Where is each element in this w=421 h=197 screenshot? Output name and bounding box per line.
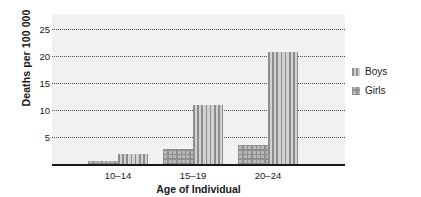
bar-girls-15-19 — [163, 149, 193, 164]
y-tick-label: 20 — [26, 52, 50, 62]
y-tick-label: 15 — [26, 79, 50, 89]
bar-boys-20-24 — [268, 52, 298, 164]
bar-chart-figure: Deaths per 100 000 25 20 15 10 5 10–14 1… — [0, 0, 421, 197]
y-axis-tick-labels: 25 20 15 10 5 — [26, 0, 50, 197]
bar-boys-15-19 — [193, 105, 223, 164]
bar-girls-20-24 — [238, 145, 268, 164]
bar-boys-10-14 — [118, 154, 148, 164]
x-axis-line — [52, 164, 345, 166]
x-axis-title: Age of Individual — [52, 183, 345, 195]
y-tick-label: 25 — [26, 25, 50, 35]
plot-area — [52, 14, 345, 164]
legend-swatch-girls-icon — [352, 87, 360, 95]
gridline-20 — [52, 56, 345, 57]
gridline-15 — [52, 83, 345, 84]
x-tick-label-20-24: 20–24 — [233, 170, 303, 181]
y-tick-label: 10 — [26, 106, 50, 116]
x-tick-label-15-19: 15–19 — [158, 170, 228, 181]
chart-legend: Boys Girls — [352, 66, 418, 104]
legend-label-boys: Boys — [365, 66, 387, 77]
y-tick-label: 5 — [26, 133, 50, 143]
x-tick-label-10-14: 10–14 — [83, 170, 153, 181]
legend-item-boys: Boys — [352, 66, 418, 77]
legend-item-girls: Girls — [352, 85, 418, 96]
legend-label-girls: Girls — [365, 85, 386, 96]
legend-swatch-boys-icon — [352, 68, 360, 76]
gridline-25 — [52, 29, 345, 30]
